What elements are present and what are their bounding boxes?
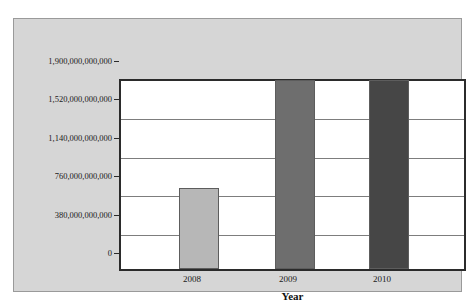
x-tick-label-2009: 2009: [253, 275, 323, 284]
x-tick-label-2008: 2008: [157, 275, 227, 284]
chart-panel: 1,900,000,000,000 1,520,000,000,000 1,14…: [13, 18, 462, 292]
y-tick-label-1: 380,000,000,000: [28, 211, 112, 220]
y-tick-label-4: 1,520,000,000,000: [28, 95, 112, 104]
bar-2008: [179, 188, 219, 269]
y-tick-label-5: 1,900,000,000,000: [28, 57, 112, 66]
bar-2010: [369, 80, 409, 270]
bar-chart-figure: 1,900,000,000,000 1,520,000,000,000 1,14…: [0, 0, 474, 302]
y-tick-label-2: 760,000,000,000: [28, 172, 112, 181]
y-tick-mark-5: [114, 61, 119, 62]
y-axis-tick-labels: 1,900,000,000,000 1,520,000,000,000 1,14…: [14, 19, 112, 302]
scan-artifact: [0, 0, 474, 10]
x-tick-label-2010: 2010: [347, 275, 417, 284]
y-tick-label-0: 0: [28, 249, 112, 258]
bar-2009: [275, 80, 315, 270]
x-axis-title: Year: [119, 291, 466, 302]
y-tick-label-3: 1,140,000,000,000: [28, 134, 112, 143]
plot-area: [119, 79, 466, 271]
